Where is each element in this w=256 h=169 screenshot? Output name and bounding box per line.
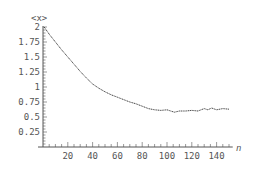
y-tick-label: 1.75	[18, 37, 40, 47]
data-series	[44, 27, 229, 112]
y-axis: 0.250.50.7511.251.51.752	[18, 22, 47, 147]
y-tick-label: 0.5	[24, 112, 40, 122]
x-tick-label: 140	[208, 151, 224, 161]
y-tick-label: 2	[35, 22, 40, 32]
series-line	[44, 27, 229, 112]
y-tick-label: 1.25	[18, 67, 40, 77]
x-tick-label: 20	[62, 151, 73, 161]
y-axis-label: <x>	[31, 13, 48, 23]
line-chart: 0.250.50.7511.251.51.752 204060801001201…	[0, 0, 256, 169]
x-tick-label: 120	[184, 151, 200, 161]
x-axis: 20406080100120140	[38, 142, 233, 161]
x-tick-label: 40	[87, 151, 98, 161]
y-tick-label: 1.5	[24, 52, 40, 62]
y-tick-label: 0.75	[18, 97, 40, 107]
x-tick-label: 100	[159, 151, 175, 161]
x-tick-label: 80	[137, 151, 148, 161]
y-tick-label: 1	[35, 82, 40, 92]
x-axis-label: n	[236, 143, 241, 153]
y-tick-label: 0.25	[18, 127, 40, 137]
x-tick-label: 60	[112, 151, 123, 161]
